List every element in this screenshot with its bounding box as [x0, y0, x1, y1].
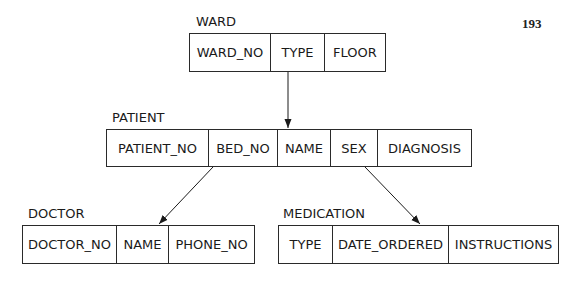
arrow-patient-to-doctor	[159, 167, 213, 224]
arrow-patient-to-medication	[365, 167, 420, 224]
relationship-arrows	[0, 0, 577, 282]
